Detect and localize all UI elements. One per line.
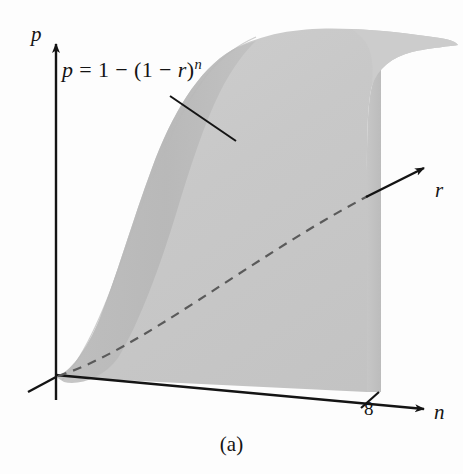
surface-right-end-cap xyxy=(367,67,381,392)
figure-caption: (a) xyxy=(0,432,463,457)
r-axis-origin-tail xyxy=(28,377,56,392)
equation-close-paren: ) xyxy=(187,57,195,82)
r-axis-label: r xyxy=(435,178,443,203)
equation-r: r xyxy=(178,57,187,82)
equation-open-paren: (1 xyxy=(134,57,153,82)
p-axis-label: p xyxy=(31,22,42,47)
equation-minus: − xyxy=(115,57,128,82)
equation-equals: = xyxy=(79,57,92,82)
equation-inner-minus: − xyxy=(159,57,172,82)
surface-equation-annotation: p = 1 − (1 − r)n xyxy=(62,57,202,83)
equation-one: 1 xyxy=(98,57,109,82)
equation-exponent-n: n xyxy=(195,56,203,72)
n-axis-tick-label-8: 8 xyxy=(364,398,374,420)
n-axis-label: n xyxy=(434,400,445,425)
equation-lhs: p xyxy=(62,57,73,82)
figure-3d-surface-plot: p n r 8 p = 1 − (1 − r)n (a) xyxy=(0,0,463,474)
surface-body xyxy=(56,28,458,392)
